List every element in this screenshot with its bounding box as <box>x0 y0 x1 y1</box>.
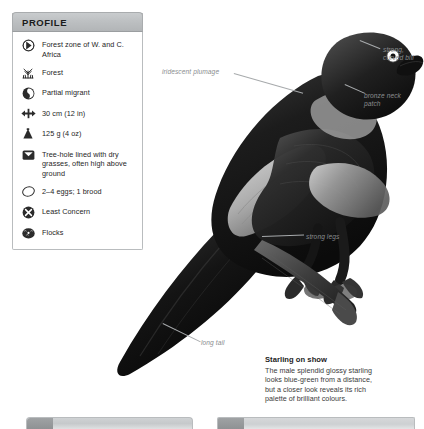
leg-front <box>340 222 345 280</box>
annotation-bronze-line2: patch <box>364 100 401 108</box>
weight-icon <box>20 128 36 141</box>
caption-line-2: looks blue-green from a distance, <box>265 375 417 384</box>
next-panel-left-tab <box>27 418 53 429</box>
page-canvas: PROFILE Forest zone of W. and C. Africa <box>0 0 424 429</box>
annotation-long-tail: long tail <box>201 339 225 347</box>
length-arrows-icon <box>20 108 36 121</box>
egg-icon <box>20 186 36 199</box>
annotation-bronze-line1: bronze neck <box>364 92 401 100</box>
profile-row-habitat-text: Forest <box>42 67 63 78</box>
migration-partial-icon <box>20 87 36 100</box>
distribution-globe-icon <box>20 39 36 52</box>
caption-block: Starling on show The male splendid gloss… <box>265 355 417 404</box>
next-panel-right-tab <box>218 418 244 429</box>
annotation-strong-legs: strong legs <box>306 233 339 241</box>
conservation-status-icon <box>20 206 36 219</box>
caption-line-4: palette of brilliant colours. <box>265 394 417 403</box>
profile-row-weight-text: 125 g (4 oz) <box>42 128 82 139</box>
caption-line-3: but a closer look reveals its rich <box>265 385 417 394</box>
profile-title: PROFILE <box>22 17 67 28</box>
annotation-bill-line2: curved bill <box>383 54 414 62</box>
profile-row-migration-text: Partial migrant <box>42 87 90 98</box>
profile-row-eggs-text: 2–4 eggs; 1 brood <box>42 186 102 197</box>
annotation-iridescent-plumage: iridescent plumage <box>162 68 219 76</box>
caption-title: Starling on show <box>265 355 417 364</box>
caption-body: The male splendid glossy starling looks … <box>265 366 417 404</box>
starling-photograph <box>104 0 424 415</box>
next-panel-left-partial <box>26 417 193 429</box>
annotation-strong-curved-bill: strong, curved bill <box>383 46 414 63</box>
profile-row-conservation-text: Least Concern <box>42 206 90 217</box>
caption-line-1: The male splendid glossy starling <box>265 366 417 375</box>
nest-icon <box>20 149 36 162</box>
habitat-forest-icon <box>20 67 36 80</box>
starling-illustration <box>104 0 424 415</box>
annotation-bill-line1: strong, <box>383 46 414 54</box>
annotation-bronze-neck-patch: bronze neck patch <box>364 92 401 109</box>
next-panel-right-partial <box>217 417 415 429</box>
profile-row-length-text: 30 cm (12 in) <box>42 108 85 119</box>
social-flocks-icon <box>20 227 36 240</box>
profile-row-social-text: Flocks <box>42 227 63 238</box>
